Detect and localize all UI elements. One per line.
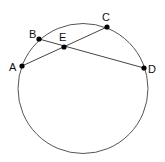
point-c-dot bbox=[104, 24, 109, 29]
point-b-dot bbox=[36, 36, 41, 41]
chord-bd bbox=[39, 39, 144, 68]
point-label-a: A bbox=[9, 61, 17, 73]
point-label-d: D bbox=[148, 63, 156, 75]
point-d-dot bbox=[141, 65, 146, 70]
circle bbox=[18, 24, 148, 154]
point-label-c: C bbox=[102, 11, 110, 23]
point-e-dot bbox=[61, 44, 66, 49]
point-a-dot bbox=[19, 63, 24, 68]
point-label-e: E bbox=[59, 31, 66, 43]
point-label-b: B bbox=[29, 28, 36, 40]
circle-diagram: A B C D E bbox=[0, 0, 165, 162]
